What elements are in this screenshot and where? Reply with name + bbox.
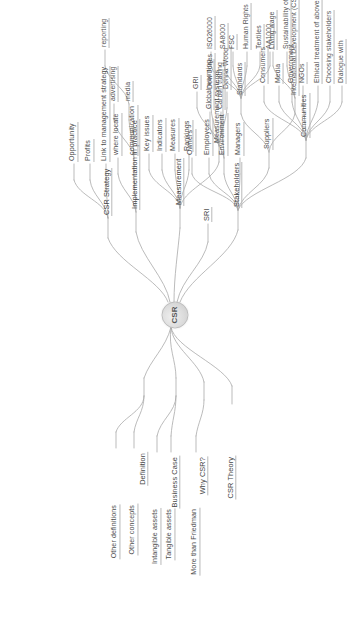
node-employees[interactable]: Employees (204, 118, 213, 156)
mindmap-canvas: CSR Definition Other definitions Other c… (0, 0, 350, 628)
node-tangible-assets[interactable]: Tangible assets (166, 508, 175, 560)
node-communication[interactable]: communication (129, 105, 138, 156)
branch-sri[interactable]: SRI (203, 207, 212, 222)
node-carbon-trading[interactable]: Carbon trading (217, 61, 226, 110)
node-intangible-assets[interactable]: Intangible assets (152, 508, 161, 565)
node-opportunity[interactable]: Opportunity (69, 122, 78, 162)
node-advertising[interactable]: advertising (110, 66, 119, 102)
node-environment[interactable]: Environment (219, 113, 228, 156)
branch-measurement[interactable]: Measurement (175, 158, 184, 206)
node-living-wage[interactable]: Living wage (269, 11, 278, 51)
branch-stakeholders[interactable]: Stakeholders (233, 162, 242, 208)
node-reporting[interactable]: reporting (101, 18, 110, 48)
node-communities[interactable]: Communities (301, 94, 310, 139)
mindmap-rotated-layer: CSR Definition Other definitions Other c… (0, 0, 350, 628)
node-key-issues[interactable]: Key issues (144, 115, 153, 152)
node-ethical-treatment-of-above[interactable]: Ethical treatment of above (314, 0, 323, 84)
node-ngos[interactable]: NGOs (299, 62, 308, 84)
node-other-definitions[interactable]: Other definitions (111, 504, 120, 559)
branch-csr-strategy[interactable]: CSR Strategy (103, 168, 112, 216)
node-indicators[interactable]: Indicators (157, 118, 166, 152)
node-suppliers[interactable]: Suppliers (264, 118, 273, 150)
center-node-label: CSR (171, 306, 179, 323)
node-other-concepts[interactable]: Other concepts (129, 504, 138, 556)
node-measures[interactable]: Measures (170, 118, 179, 152)
node-global-warming[interactable]: Global warming (206, 59, 215, 110)
node-standards[interactable]: Standards (237, 62, 246, 96)
branch-csr-theory[interactable]: CSR Theory (227, 456, 236, 500)
node-more-than-friedman[interactable]: More than Friedman (191, 508, 200, 576)
branch-business-case[interactable]: Business Case (171, 456, 180, 509)
branch-why-csr[interactable]: Why CSR? (199, 456, 208, 495)
node-where-locate[interactable]: where locate (113, 113, 122, 156)
node-managers[interactable]: Managers (235, 122, 244, 156)
branch-definition[interactable]: Definition (139, 452, 148, 486)
node-media[interactable]: media (125, 81, 134, 102)
node-human-rights[interactable]: Human Rights (243, 3, 252, 50)
node-gri[interactable]: GRI (193, 75, 202, 90)
node-consumers[interactable]: Consumers (260, 46, 269, 84)
node-dialogue-with[interactable]: Dialogue with (338, 39, 347, 84)
node-iso26000[interactable]: ISO26000 (207, 16, 216, 50)
node-fsc[interactable]: FSC (229, 34, 238, 50)
node-choosing-stakeholders[interactable]: Choosing stakeholders (326, 10, 335, 84)
node-owners[interactable]: Owners (187, 129, 196, 156)
node-media-stakeholder[interactable]: Media (275, 63, 284, 84)
node-government[interactable]: Government (288, 43, 297, 84)
node-profits[interactable]: Profits (85, 139, 94, 162)
